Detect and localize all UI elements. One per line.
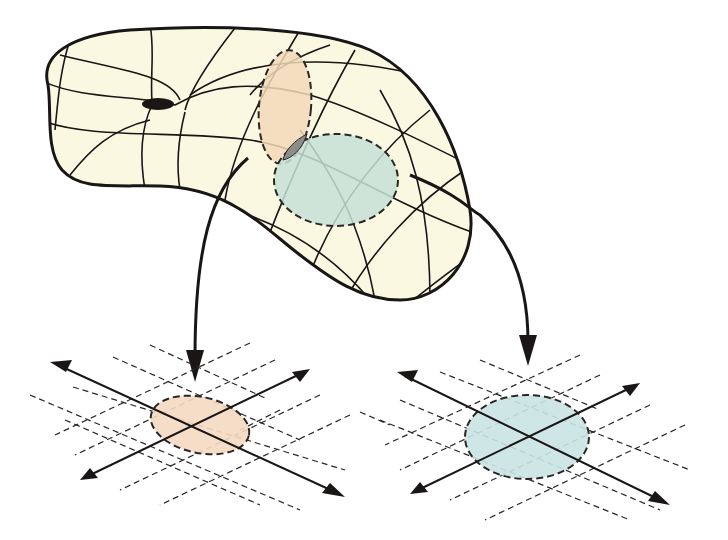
manifold-diagram <box>0 0 728 540</box>
manifold-surface <box>40 25 480 310</box>
plane-left-axis-1 <box>58 365 335 492</box>
manifold-hole <box>142 98 174 110</box>
plane-right <box>380 355 690 520</box>
manifold-outline <box>47 27 471 300</box>
plane-left <box>30 343 390 510</box>
